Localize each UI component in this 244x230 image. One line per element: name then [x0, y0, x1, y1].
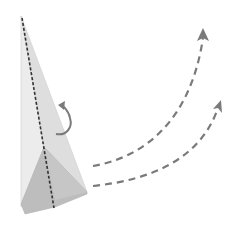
paper-airplane-diagram — [0, 0, 244, 230]
flight-path-arrow-1 — [93, 28, 209, 166]
diagram-canvas: Paper airplane folding step: rotate the … — [0, 0, 244, 230]
flight-path-arrow-2 — [93, 100, 222, 186]
paper-airplane — [21, 16, 87, 214]
